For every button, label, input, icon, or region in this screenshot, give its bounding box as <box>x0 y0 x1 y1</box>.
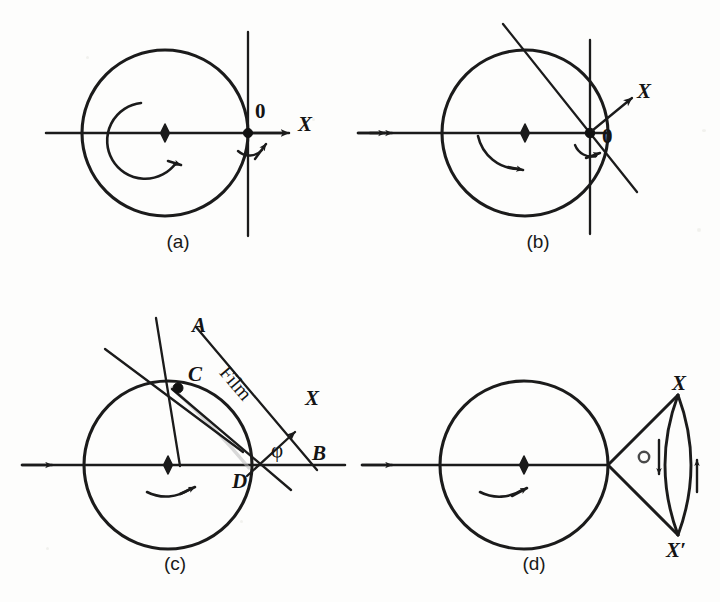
panel-b-x-axis-arrow <box>593 98 632 130</box>
panel-c-label-d: D <box>231 469 247 493</box>
panel-c-film-line-AB <box>196 327 317 470</box>
panel-d-lens-near-arc <box>665 395 678 535</box>
panel-d-center-diamond <box>520 456 529 474</box>
panel-a-axis-label: X <box>297 112 313 136</box>
panel-c-axis-label: X <box>304 386 320 410</box>
panel-a-caption: (a) <box>166 231 189 252</box>
panel-c-rotation-arrowhead <box>180 487 195 494</box>
panel-d: X X′ (d) <box>362 371 697 574</box>
panel-c-center-diamond <box>164 456 173 474</box>
panel-b: 0 X (b) <box>358 24 652 252</box>
panel-c-label-a: A <box>190 313 206 337</box>
panel-d-lower-label: X′ <box>665 538 686 562</box>
panel-d-lens-far-arc <box>678 395 691 535</box>
panel-d-caption: (d) <box>522 553 545 574</box>
panel-b-center-diamond <box>521 124 530 142</box>
panel-a: 0 X (a) <box>46 32 313 252</box>
figure-container: 0 X (a) 0 X (b) <box>0 0 720 602</box>
panel-d-sigma-symbol <box>639 452 649 462</box>
panel-c-label-c: C <box>188 362 203 386</box>
panel-a-center-diamond <box>161 124 170 142</box>
panel-c-caption: (c) <box>164 553 186 574</box>
panel-b-rotation-arc <box>478 136 519 169</box>
panel-a-origin-arrowhead <box>255 144 266 159</box>
panel-b-axis-label: X <box>636 79 652 103</box>
figure-canvas: 0 X (a) 0 X (b) <box>0 0 720 602</box>
panel-d-upper-label: X <box>671 371 687 395</box>
panel-a-origin-dot <box>243 128 252 137</box>
panel-c: A C D B X φ Film (c) <box>22 313 345 574</box>
panel-b-caption: (b) <box>526 231 549 252</box>
panel-a-origin-label: 0 <box>255 99 266 123</box>
panel-c-label-b: B <box>311 441 326 465</box>
panel-c-film-label: Film <box>215 361 257 404</box>
panel-b-origin-label: 0 <box>602 124 613 148</box>
panel-b-tilted-film-line <box>503 24 637 192</box>
panel-d-rotation-arrowhead <box>512 488 527 496</box>
panel-c-point-c-dot <box>173 383 183 393</box>
panel-b-rotation-arrowhead <box>508 167 523 170</box>
panel-c-angle-label: φ <box>271 438 283 462</box>
